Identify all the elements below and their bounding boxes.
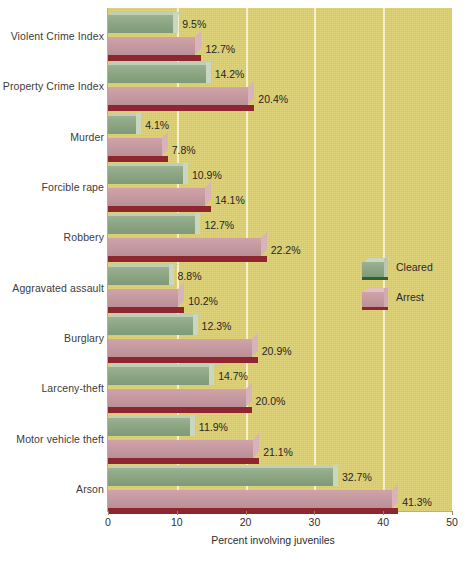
legend-swatch-arrest-icon [362,292,384,307]
legend-item-cleared: Cleared [358,258,458,288]
bar-arrest [108,440,253,458]
bar-value-label-arrest: 14.1% [215,194,245,206]
x-tick-label: 30 [299,516,329,528]
bar-cleared [108,468,333,486]
category-label: Property Crime Index [0,80,104,92]
bar-value-label-arrest: 20.9% [262,345,292,357]
category-label: Larceny-theft [0,382,104,394]
bar-arrest [108,138,162,156]
x-tick-label: 40 [368,516,398,528]
bar-arrest [108,188,205,206]
bar-cleared [108,216,195,234]
bar-arrest [108,37,195,55]
bar-value-label-arrest: 21.1% [263,446,293,458]
bar-cleared [108,116,136,134]
x-tick-mark [383,511,384,515]
legend-label-arrest: Arrest [396,291,424,303]
category-label: Forcible rape [0,181,104,193]
bar-value-label-cleared: 9.5% [182,18,206,30]
x-tick-mark [246,511,247,515]
bar-cleared [108,267,169,285]
bar-arrest [108,339,252,357]
category-label: Violent Crime Index [0,30,104,42]
bar-value-label-arrest: 20.4% [258,93,288,105]
bar-cleared [108,317,193,335]
bar-value-label-cleared: 12.7% [204,219,234,231]
bar-value-label-arrest: 41.3% [402,496,432,508]
bar-cleared [108,166,183,184]
legend-label-cleared: Cleared [396,261,433,273]
bar-arrest [108,490,392,508]
bar-cleared [108,15,173,33]
bar-arrest [108,238,261,256]
bar-value-label-cleared: 10.9% [192,169,222,181]
bar-arrest [108,389,246,407]
bar-arrest [108,289,178,307]
x-tick-mark [314,511,315,515]
bar-value-label-cleared: 11.9% [199,421,228,433]
category-label: Motor vehicle theft [0,433,104,445]
bar-value-label-cleared: 14.7% [218,370,248,382]
bar-value-label-cleared: 32.7% [342,471,372,483]
bar-value-label-cleared: 12.3% [202,320,232,332]
category-axis-labels: Violent Crime IndexProperty Crime IndexM… [0,0,104,568]
gridline [314,8,316,511]
category-label: Murder [0,131,104,143]
bar-value-label-cleared: 14.2% [215,68,245,80]
bar-value-label-arrest: 10.2% [188,295,218,307]
bar-cleared [108,367,209,385]
x-tick-label: 10 [162,516,192,528]
bar-value-label-arrest: 12.7% [205,43,235,55]
x-tick-label: 0 [93,516,123,528]
x-axis-title: Percent involving juveniles [0,534,466,546]
x-tick-label: 20 [231,516,261,528]
x-tick-label: 50 [437,516,466,528]
legend-swatch-cleared-icon [362,262,384,277]
category-label: Robbery [0,231,104,243]
x-tick-mark [108,511,109,515]
bar-value-label-arrest: 7.8% [172,144,196,156]
category-label: Burglary [0,332,104,344]
bar-arrest [108,87,248,105]
legend-item-arrest: Arrest [358,288,458,318]
bar-chart: Violent Crime IndexProperty Crime IndexM… [0,0,466,568]
chart-legend: Cleared Arrest [358,258,458,318]
x-tick-mark [177,511,178,515]
bar-value-label-cleared: 8.8% [178,270,202,282]
category-label: Aggravated assault [0,282,104,294]
x-tick-mark [452,511,453,515]
bar-cleared [108,65,206,83]
bar-value-label-arrest: 20.0% [256,395,286,407]
bar-value-label-arrest: 22.2% [271,244,301,256]
category-label: Arson [0,483,104,495]
bar-value-label-cleared: 4.1% [145,119,169,131]
bar-cleared [108,418,190,436]
